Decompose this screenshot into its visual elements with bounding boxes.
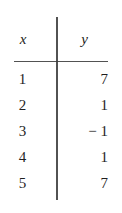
table-row: 4 1 (0, 146, 122, 172)
cell-x: 1 (0, 68, 56, 90)
column-header-x: x (0, 28, 56, 50)
table-row: 5 7 (0, 172, 122, 198)
cell-x: 5 (0, 172, 56, 194)
table-header-row: x y (0, 28, 122, 54)
cell-y: 1 (56, 146, 108, 168)
table-row: 3 − 1 (0, 120, 122, 146)
cell-x: 2 (0, 94, 56, 116)
table-row: 1 7 (0, 68, 122, 94)
cell-x: 3 (0, 120, 56, 142)
cell-y: 7 (56, 68, 108, 90)
value-table-figure: x y 1 7 2 1 3 − 1 4 1 5 7 (0, 0, 122, 213)
header-separator-rule (14, 61, 108, 62)
cell-y: 1 (56, 94, 108, 116)
cell-y: − 1 (56, 120, 108, 142)
table-body: 1 7 2 1 3 − 1 4 1 5 7 (0, 68, 122, 198)
cell-x: 4 (0, 146, 56, 168)
cell-y: 7 (56, 172, 108, 194)
table-row: 2 1 (0, 94, 122, 120)
column-header-y: y (56, 28, 122, 50)
